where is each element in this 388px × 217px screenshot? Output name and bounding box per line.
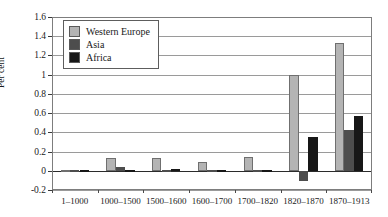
y-axis: 1.61.41.210.80.60.40.20-0.2 [0, 0, 388, 217]
y-axis-tick-label: 1.6 [10, 12, 46, 22]
y-axis-tick-mark [48, 171, 52, 172]
legend-item: Western Europe [69, 25, 150, 38]
y-axis-tick-mark [48, 36, 52, 37]
x-axis-tick-mark [235, 190, 236, 193]
y-axis-tick-label: 0.6 [10, 108, 46, 118]
x-axis-tick-mark [371, 190, 372, 193]
y-axis-tick-label: 1.4 [10, 31, 46, 41]
x-axis-tick-label: 1700–1820 [235, 196, 281, 206]
y-axis-tick-label: 1 [10, 70, 46, 80]
x-axis-tick-label: 1600–1700 [189, 196, 235, 206]
x-axis-tick-label: 1870–1913 [326, 196, 372, 206]
y-axis-tick-label: 0.2 [10, 147, 46, 157]
legend-item: Asia [69, 38, 150, 51]
y-axis-tick-mark [48, 17, 52, 18]
y-axis-tick-mark [48, 113, 52, 114]
y-axis-tick-mark [48, 75, 52, 76]
y-axis-tick-mark [48, 132, 52, 133]
x-axis-tick-label: 1–1000 [52, 196, 98, 206]
x-axis: 1–10001000–15001500–16001600–17001700–18… [52, 190, 372, 216]
y-axis-tick-label: -0.2 [10, 185, 46, 195]
x-axis-tick-mark [189, 190, 190, 193]
legend-swatch-icon [69, 26, 80, 37]
chart-container: 1.61.41.210.80.60.40.20-0.2 Per cent 1–1… [0, 0, 388, 217]
legend-item-label: Western Europe [86, 26, 150, 37]
x-axis-tick-mark [143, 190, 144, 193]
x-axis-tick-label: 1000–1500 [98, 196, 144, 206]
x-axis-tick-mark [52, 190, 53, 193]
legend-item-label: Africa [86, 52, 112, 63]
x-axis-tick-label: 1820–1870 [281, 196, 327, 206]
y-axis-tick-label: 1.2 [10, 50, 46, 60]
x-axis-tick-mark [98, 190, 99, 193]
x-axis-tick-mark [326, 190, 327, 193]
legend-swatch-icon [69, 39, 80, 50]
legend-item: Africa [69, 51, 150, 64]
y-axis-tick-mark [48, 55, 52, 56]
y-axis-tick-label: 0 [10, 166, 46, 176]
y-axis-tick-mark [48, 94, 52, 95]
legend-swatch-icon [69, 52, 80, 63]
legend-item-label: Asia [86, 39, 104, 50]
y-axis-tick-mark [48, 152, 52, 153]
legend: Western EuropeAsiaAfrica [63, 20, 159, 69]
x-axis-tick-mark [281, 190, 282, 193]
y-axis-title: Per cent [0, 57, 6, 88]
y-axis-tick-label: 0.8 [10, 89, 46, 99]
y-axis-tick-label: 0.4 [10, 127, 46, 137]
x-axis-tick-label: 1500–1600 [143, 196, 189, 206]
